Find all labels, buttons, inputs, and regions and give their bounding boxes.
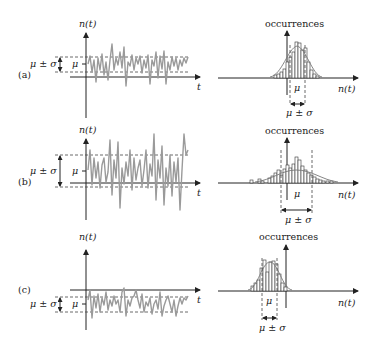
spread-label: μ ± σ	[30, 298, 57, 309]
mean-label: μ	[294, 188, 300, 199]
x-axis-label: t	[197, 81, 201, 92]
y-axis-label: n(t)	[79, 18, 97, 29]
spread-label: μ ± σ	[286, 107, 313, 118]
noise-signal	[88, 44, 188, 86]
spread-label: μ ± σ	[259, 322, 286, 333]
panel-label: (a)	[18, 69, 31, 80]
time-plot: n(t) t μ μ ± σ	[30, 124, 201, 220]
x-axis-label: n(t)	[338, 189, 356, 200]
y-axis-label: occurrences	[265, 125, 324, 136]
time-plot: n(t) t μ μ ± σ	[30, 18, 201, 118]
panel-b: (b) n(t) t μ μ ± σ occurrences n(t)	[18, 124, 358, 225]
x-axis-label: t	[197, 294, 201, 305]
spread-label: μ ± σ	[30, 165, 57, 176]
noise-signal	[88, 288, 188, 318]
y-axis-label: n(t)	[79, 231, 97, 242]
histogram: occurrences n(t) μ μ ± σ	[218, 231, 358, 333]
noise-statistics-figure: (a) n(t) t μ μ ± σ occurrences n(t)	[0, 0, 367, 348]
mean-label: μ	[72, 58, 78, 69]
x-axis-label: t	[197, 187, 201, 198]
y-axis-label: occurrences	[265, 18, 324, 29]
panel-label: (c)	[18, 284, 31, 295]
histogram: occurrences n(t)	[218, 125, 358, 225]
noise-signal	[88, 134, 188, 210]
spread-label: μ ± σ	[285, 214, 312, 225]
x-axis-label: n(t)	[338, 297, 356, 308]
time-plot: n(t) t μ μ ± σ	[30, 231, 201, 330]
histogram-bars	[274, 42, 319, 78]
mean-label: μ	[72, 298, 78, 309]
panel-a: (a) n(t) t μ μ ± σ occurrences n(t)	[18, 18, 358, 118]
mean-label: μ	[72, 165, 78, 176]
mean-label: μ	[266, 295, 272, 306]
histogram: occurrences n(t) μ	[218, 18, 358, 118]
x-axis-label: n(t)	[338, 83, 356, 94]
panel-c: (c) n(t) t μ μ ± σ occurrences n(t)	[18, 231, 358, 333]
y-axis-label: n(t)	[79, 124, 97, 135]
histogram-bars	[251, 260, 287, 291]
panel-label: (b)	[18, 176, 32, 187]
y-axis-label: occurrences	[259, 231, 318, 242]
spread-label: μ ± σ	[30, 58, 57, 69]
mean-label: μ	[294, 82, 300, 93]
